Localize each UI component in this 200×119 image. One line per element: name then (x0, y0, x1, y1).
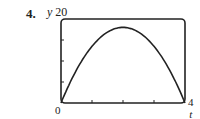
data-curve (61, 27, 185, 103)
plot-area (0, 0, 200, 119)
plot-frame (61, 19, 185, 103)
